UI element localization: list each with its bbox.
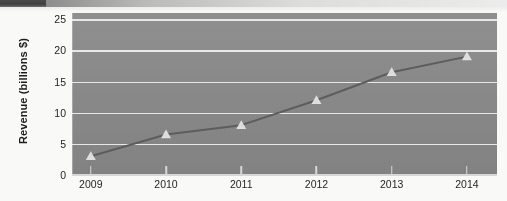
y-tick-label: 0 bbox=[36, 169, 66, 181]
y-tick-label: 25 bbox=[36, 13, 66, 25]
y-tick-label: 15 bbox=[36, 76, 66, 88]
y-tick-label: 5 bbox=[36, 138, 66, 150]
x-tick-label: 2014 bbox=[455, 178, 478, 190]
x-tick-label: 2013 bbox=[380, 178, 403, 190]
data-point-marker bbox=[462, 52, 472, 61]
revenue-line-chart: Revenue (billions $) 2520151050 20092010… bbox=[0, 0, 507, 201]
x-axis-line bbox=[72, 174, 497, 176]
x-tick-label: 2012 bbox=[305, 178, 328, 190]
y-axis-title: Revenue (billions $) bbox=[17, 6, 29, 176]
x-axis-tick-labels: 200920102011201220132014 bbox=[72, 178, 497, 198]
x-tick-label: 2010 bbox=[154, 178, 177, 190]
y-tick-label: 20 bbox=[36, 44, 66, 56]
y-tick-label: 10 bbox=[36, 107, 66, 119]
y-axis-tick-labels: 2520151050 bbox=[36, 13, 66, 175]
revenue-series bbox=[72, 13, 497, 175]
plot-area bbox=[72, 13, 497, 175]
x-tick-label: 2009 bbox=[79, 178, 102, 190]
series-line bbox=[91, 57, 467, 157]
x-tick-label: 2011 bbox=[230, 178, 253, 190]
